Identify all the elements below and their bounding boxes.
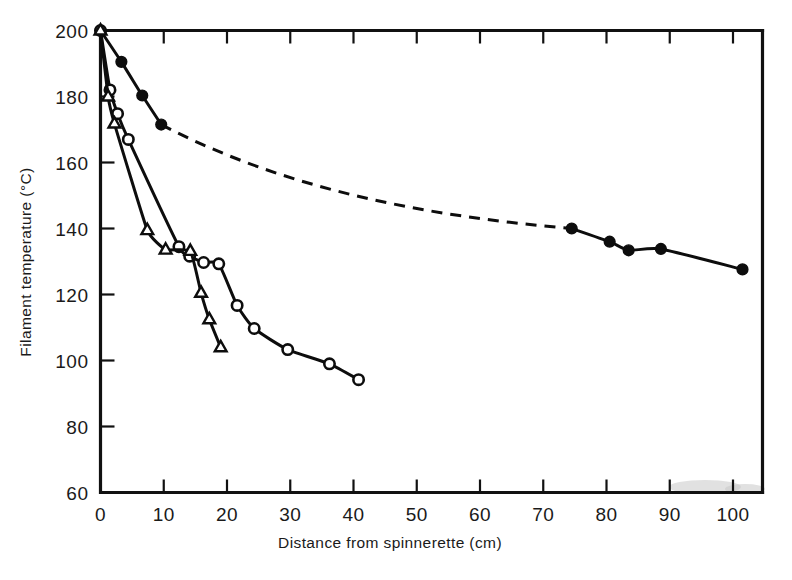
data-point-filled-circle <box>156 119 167 130</box>
x-tick-label-40: 40 <box>342 504 364 525</box>
y-tick-label-80: 80 <box>66 417 88 438</box>
x-tick-label-70: 70 <box>532 504 554 525</box>
y-tick-label-120: 120 <box>55 285 88 306</box>
chart-canvas: 0102030405060708090100608010012014016018… <box>0 0 792 580</box>
x-tick-label-100: 100 <box>716 504 749 525</box>
x-tick-label-30: 30 <box>279 504 301 525</box>
x-tick-label-90: 90 <box>659 504 681 525</box>
data-point-open-circle <box>353 374 363 384</box>
data-point-filled-circle <box>604 236 615 247</box>
figure-container: 0102030405060708090100608010012014016018… <box>0 0 792 580</box>
y-tick-label-140: 140 <box>55 219 88 240</box>
y-tick-label-160: 160 <box>55 153 88 174</box>
data-point-open-circle <box>283 344 293 354</box>
x-tick-label-60: 60 <box>469 504 491 525</box>
data-point-open-circle <box>123 134 133 144</box>
data-point-open-circle <box>232 300 242 310</box>
x-tick-label-20: 20 <box>216 504 238 525</box>
y-tick-label-200: 200 <box>55 21 88 42</box>
data-point-filled-circle <box>737 264 748 275</box>
data-point-open-circle <box>324 359 334 369</box>
y-tick-label-100: 100 <box>55 351 88 372</box>
data-point-filled-circle <box>116 56 127 67</box>
data-point-filled-circle <box>566 223 577 234</box>
x-tick-label-0: 0 <box>95 504 106 525</box>
y-tick-label-180: 180 <box>55 87 88 108</box>
x-axis-title: Distance from spinnerette (cm) <box>278 534 502 551</box>
x-tick-label-80: 80 <box>595 504 617 525</box>
x-tick-label-50: 50 <box>406 504 428 525</box>
data-point-filled-circle <box>655 244 666 255</box>
data-point-open-circle <box>249 323 259 333</box>
data-point-filled-circle <box>137 90 148 101</box>
x-tick-label-10: 10 <box>153 504 175 525</box>
data-point-open-circle <box>214 259 224 269</box>
data-point-filled-circle <box>623 245 634 256</box>
y-axis-title: Filament temperature (°C) <box>17 167 34 356</box>
data-point-open-circle <box>198 257 208 267</box>
y-tick-label-60: 60 <box>66 483 88 504</box>
